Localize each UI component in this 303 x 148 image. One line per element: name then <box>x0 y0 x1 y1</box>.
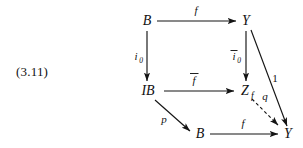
figure-container: (3.11) B Y IB Z f B Y <box>0 0 303 148</box>
node-middle-right: Z f <box>241 83 255 101</box>
node-top-left-label: B <box>143 13 152 28</box>
node-middle-right-label: Z <box>241 83 249 98</box>
edge-right-vertical-label: i <box>232 50 235 62</box>
edge-left-vertical-label: i <box>134 50 137 62</box>
node-top-left: B <box>143 13 152 28</box>
node-top-right-label: Y <box>242 13 252 28</box>
node-bottom-left-label: B <box>196 126 205 141</box>
node-bottom-left: B <box>196 126 205 141</box>
edge-dashed-q-line <box>252 99 278 125</box>
edge-diagonal-p: p <box>155 100 190 131</box>
edge-diagonal-p-label: p <box>160 113 167 125</box>
edge-right-vertical: i 0 <box>231 31 247 81</box>
node-bottom-right: Y <box>284 126 294 141</box>
edge-bottom-horizontal-label: f <box>241 117 246 129</box>
commutative-diagram: B Y IB Z f B Y f i <box>0 0 303 148</box>
edge-dashed-q: q <box>252 90 278 125</box>
edge-right-vertical-label-subscript: 0 <box>237 56 241 65</box>
edge-left-vertical-label-subscript: 0 <box>139 56 143 65</box>
edge-dashed-q-label: q <box>262 90 268 102</box>
edge-identity: 1 <box>251 30 287 126</box>
node-middle-left-label: IB <box>140 83 155 98</box>
edge-left-vertical: i 0 <box>134 31 147 81</box>
edge-middle-horizontal: f <box>164 74 234 92</box>
edge-bottom-horizontal: f <box>210 117 278 134</box>
node-top-right: Y <box>242 13 252 28</box>
edge-top-horizontal: f <box>157 4 236 21</box>
edge-middle-horizontal-label: f <box>192 74 197 86</box>
edge-identity-label: 1 <box>272 72 278 84</box>
edge-identity-line <box>251 30 287 126</box>
edge-diagonal-p-line <box>155 100 190 131</box>
node-middle-left: IB <box>140 83 155 98</box>
edge-top-horizontal-label: f <box>194 4 199 16</box>
node-bottom-right-label: Y <box>284 126 294 141</box>
